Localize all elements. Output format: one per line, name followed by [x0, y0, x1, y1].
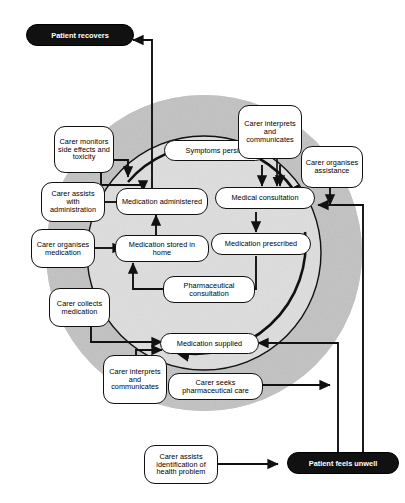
diagram-canvas: Patient recovers Patient feels unwell Sy… [0, 0, 405, 503]
outcome-patient-recovers-label: Patient recovers [51, 31, 109, 40]
node-carer-collects-medication[interactable]: Carer collects medication [49, 288, 110, 327]
node-carer-organises-assistance[interactable]: Carer organises assistance [301, 146, 363, 188]
node-carer-interprets-top-label: Carer interprets and communicates [242, 120, 298, 144]
node-carer-organises-assistance-label: Carer organises assistance [305, 159, 359, 175]
node-carer-interprets-left-label: Carer interprets and communicates [107, 368, 163, 392]
node-carer-seeks-pharmaceutical-care-label: Carer seeks pharmaceutical care [172, 379, 259, 395]
node-pharmaceutical-consultation[interactable]: Pharmaceutical consultation [163, 276, 255, 303]
node-carer-collects-medication-label: Carer collects medication [53, 300, 106, 316]
outcome-patient-unwell[interactable]: Patient feels unwell [287, 452, 399, 474]
node-carer-interprets-left[interactable]: Carer interprets and communicates [103, 355, 167, 404]
node-medication-supplied[interactable]: Medication supplied [160, 333, 259, 354]
node-carer-assists-administration-label: Carer assists with administration [45, 190, 101, 214]
node-carer-assists-identification-label: Carer assists identification of health p… [148, 453, 214, 477]
outcome-patient-recovers[interactable]: Patient recovers [26, 24, 134, 46]
node-pharmaceutical-consultation-label: Pharmaceutical consultation [167, 282, 251, 298]
node-carer-organises-medication-label: Carer organises medication [35, 241, 91, 257]
node-carer-seeks-pharmaceutical-care[interactable]: Carer seeks pharmaceutical care [168, 373, 263, 400]
node-medical-consultation-label: Medical consultation [231, 194, 298, 202]
node-carer-assists-identification[interactable]: Carer assists identification of health p… [144, 445, 218, 484]
node-medication-stored-label: Medication stored in home [119, 241, 205, 257]
node-medical-consultation[interactable]: Medical consultation [215, 187, 315, 209]
node-carer-assists-administration[interactable]: Carer assists with administration [41, 182, 105, 222]
node-carer-monitors-label: Carer monitors side effects and toxicity [58, 138, 110, 162]
node-carer-organises-medication[interactable]: Carer organises medication [31, 229, 95, 268]
node-carer-monitors[interactable]: Carer monitors side effects and toxicity [54, 126, 114, 173]
node-medication-prescribed[interactable]: Medication prescribed [211, 233, 311, 255]
node-medication-administered[interactable]: Medication administered [116, 188, 208, 215]
outcome-patient-unwell-label: Patient feels unwell [309, 459, 378, 468]
node-carer-interprets-top[interactable]: Carer interprets and communicates [238, 105, 302, 159]
node-medication-administered-label: Medication administered [122, 198, 202, 206]
node-medication-supplied-label: Medication supplied [177, 340, 242, 348]
node-symptoms-persist-label: Symptoms persist [186, 147, 245, 155]
node-medication-stored[interactable]: Medication stored in home [115, 235, 209, 262]
node-medication-prescribed-label: Medication prescribed [225, 240, 297, 248]
